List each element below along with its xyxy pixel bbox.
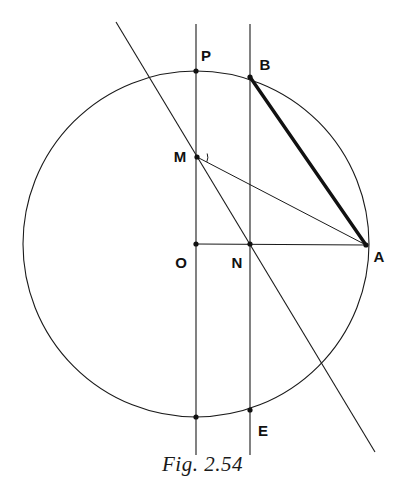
point-dot-E xyxy=(247,407,252,412)
oblique-secant-line-segment xyxy=(116,22,375,452)
point-label-P: P xyxy=(201,47,211,64)
point-label-E: E xyxy=(258,422,268,439)
point-dot-P xyxy=(193,68,198,73)
point-label-M: M xyxy=(174,148,187,165)
figure-caption: Fig. 2.54 xyxy=(0,452,405,477)
segments-group xyxy=(116,22,375,455)
horizontal-radius-O-A-segment xyxy=(196,244,366,245)
geometry-figure: P B M O N A E Fig. 2.54 xyxy=(0,0,405,501)
point-label-B: B xyxy=(260,56,271,73)
point-label-A: A xyxy=(374,248,385,265)
chord-M-A-segment xyxy=(197,157,366,245)
point-dot-A xyxy=(363,242,368,247)
point-dot-N xyxy=(247,241,252,246)
point-label-O: O xyxy=(175,254,187,271)
point-dot-O xyxy=(193,241,198,246)
figure-canvas: P B M O N A E xyxy=(0,0,405,501)
right-angle-arc-at-M xyxy=(207,154,208,162)
point-labels-group: P B M O N A E xyxy=(174,47,385,439)
chord-B-A-bold-segment xyxy=(250,77,366,245)
point-dot-M xyxy=(194,154,199,159)
point-label-N: N xyxy=(232,254,243,271)
point-dot-B xyxy=(247,74,252,79)
point-dot-Q xyxy=(193,414,198,419)
